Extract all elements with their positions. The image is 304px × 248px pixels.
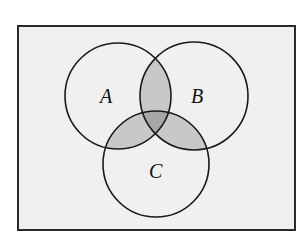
label-b: B (191, 85, 203, 107)
label-c: C (149, 160, 163, 182)
venn-diagram: A B C (0, 0, 304, 248)
label-a: A (98, 85, 113, 107)
